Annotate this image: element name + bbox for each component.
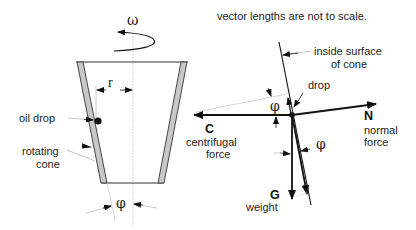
drop-leader-arrow xyxy=(294,93,303,107)
force-angle-top-label: φ xyxy=(270,98,280,114)
centrifugal-cone-diagram: ω r oil drop rotating cone φ xyxy=(0,0,416,230)
cone-figure: ω r oil drop rotating cone φ xyxy=(19,12,188,226)
drop-label: drop xyxy=(308,79,330,91)
scale-note: vector lengths are not to scale. xyxy=(217,10,367,22)
rotation-arrow-icon xyxy=(114,32,155,51)
rotating-cone-label-line1: rotating xyxy=(22,145,59,157)
weight-label: weight xyxy=(245,201,278,213)
centrifugal-label-line2: force xyxy=(206,148,230,160)
force-diagram: vector lengths are not to scale. inside … xyxy=(186,10,398,213)
cone-angle-label: φ xyxy=(116,195,126,211)
omega-label: ω xyxy=(127,12,138,28)
oil-drop-dot xyxy=(94,117,101,124)
bottom-phi-arrow-right xyxy=(301,149,310,151)
cone-wall-right xyxy=(158,62,187,183)
surface-label-line1: inside surface xyxy=(314,45,382,57)
centrifugal-symbol: C xyxy=(205,122,214,136)
rotating-cone-leader xyxy=(67,150,95,161)
angle-arrow-left xyxy=(103,206,111,208)
cone-surface-line xyxy=(279,42,311,205)
surface-leader-arrow xyxy=(283,53,298,55)
normal-label-line2: force xyxy=(364,136,388,148)
drop-point xyxy=(289,112,295,118)
rotating-cone-label-line2: cone xyxy=(36,158,60,170)
weight-surface-component-arrow xyxy=(292,115,307,194)
normal-symbol: N xyxy=(364,109,373,123)
oil-drop-label: oil drop xyxy=(19,112,55,124)
weight-symbol: G xyxy=(270,188,280,202)
radius-label: r xyxy=(108,75,113,90)
top-phi-arrow-upper xyxy=(268,88,271,96)
weight-tip-connector xyxy=(293,193,307,197)
cone-wall-left xyxy=(77,62,107,183)
normal-label-line1: normal xyxy=(364,124,398,136)
surface-label-line2: of cone xyxy=(331,58,367,70)
centrifugal-label-line1: centrifugal xyxy=(186,136,237,148)
force-angle-bottom-label: φ xyxy=(316,136,326,152)
angle-arrow-right xyxy=(134,204,143,205)
angle-wall-extension xyxy=(107,183,115,220)
